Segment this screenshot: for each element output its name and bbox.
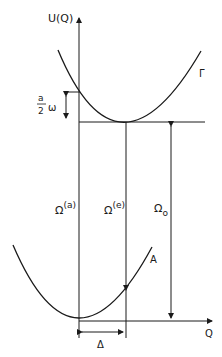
half-omega-symbol: ω bbox=[48, 102, 56, 113]
half-omega-denominator: 2 bbox=[38, 106, 44, 116]
omega-a-label: Ω(a) bbox=[55, 200, 76, 217]
omega-0-label: Ωo bbox=[154, 202, 168, 218]
lower-parabola-curve bbox=[13, 245, 152, 318]
delta-label: Δ bbox=[97, 339, 104, 350]
x-axis-label: Q bbox=[205, 328, 213, 339]
omega-e-label: Ω(e) bbox=[104, 200, 125, 217]
upper-parabola-label: Γ bbox=[199, 68, 205, 79]
lower-parabola-label: A bbox=[150, 254, 157, 265]
diagram-canvas: U(Q) Q Γ a 2 ω A Ω(a) Ω(e) Ωo Δ bbox=[0, 0, 222, 357]
y-axis-label: U(Q) bbox=[48, 12, 73, 25]
half-omega-numerator: a bbox=[38, 93, 44, 103]
